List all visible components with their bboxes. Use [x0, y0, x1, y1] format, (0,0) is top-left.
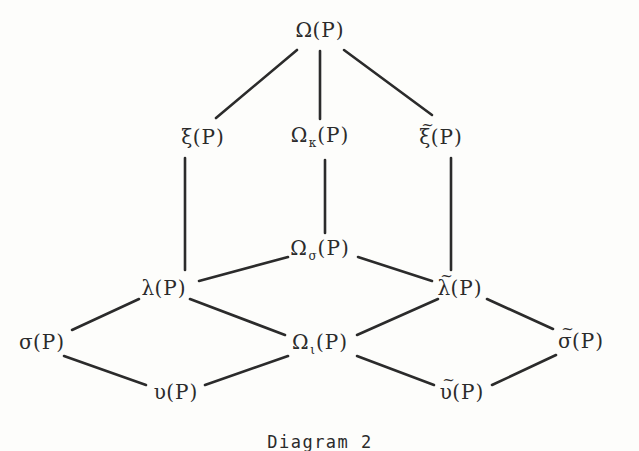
tilde-accent-icon: ~: [561, 322, 574, 337]
edge-layer: [0, 0, 639, 451]
node-subscript-omega-iota: ι: [309, 343, 316, 357]
edge-omega-iota-to-upsilon-tilde: [357, 356, 434, 385]
node-omega-kappa: Ωκ(P): [291, 125, 350, 149]
diagram-figure: Ω(P)ξ(P)Ωκ(P)ξ~(P)Ωσ(P)λ(P)λ~(P)σ(P)Ωι(P…: [0, 0, 639, 451]
node-subscript-omega-sigma: σ: [307, 249, 317, 263]
node-symbol-xi-tilde: ξ~: [419, 127, 431, 147]
node-xi-tilde: ξ~(P): [419, 127, 463, 147]
node-argument-omega-sigma: (P): [318, 236, 350, 260]
node-upsilon: υ(P): [154, 382, 199, 402]
node-base-omega-kappa: Ω: [291, 123, 308, 147]
node-argument-upsilon-tilde: (P): [452, 380, 484, 404]
node-omega: Ω(P): [295, 20, 344, 40]
tilde-accent-icon: ~: [440, 269, 453, 284]
node-argument-lambda-tilde: (P): [451, 276, 483, 300]
node-base-omega-sigma: Ω: [290, 236, 307, 260]
edge-lambda-to-sigma: [72, 299, 139, 330]
node-lambda-tilde: λ~(P): [437, 278, 482, 298]
figure-caption: Diagram 2: [267, 432, 373, 451]
node-lambda: λ(P): [141, 278, 186, 298]
node-base-xi: ξ: [181, 125, 193, 149]
node-base-sigma: σ: [19, 330, 33, 354]
node-argument-sigma-tilde: (P): [572, 329, 604, 353]
node-base-omega-iota: Ω: [292, 330, 309, 354]
node-omega-iota: Ωι(P): [292, 332, 348, 356]
node-argument-omega-iota: (P): [316, 330, 348, 354]
edge-omega-iota-to-lambda-tilde: [357, 299, 438, 335]
tilde-accent-icon: ~: [442, 373, 455, 388]
node-base-upsilon: υ: [154, 380, 167, 404]
node-argument-upsilon: (P): [166, 380, 198, 404]
node-base-omega: Ω: [295, 18, 312, 42]
edge-sigma-to-upsilon: [64, 356, 146, 385]
edge-lambda-tilde-to-sigma-tilde: [487, 299, 553, 329]
node-argument-sigma: (P): [33, 330, 65, 354]
node-subscript-omega-kappa: κ: [308, 136, 318, 150]
edge-upsilon-tilde-to-sigma-tilde: [492, 355, 556, 385]
node-symbol-upsilon-tilde: υ~: [440, 382, 453, 402]
node-omega-sigma: Ωσ(P): [290, 238, 349, 262]
node-argument-omega: (P): [313, 18, 345, 42]
edge-omega-to-xi-tilde: [344, 50, 432, 115]
node-argument-lambda: (P): [155, 276, 187, 300]
edge-lambda-to-omega-iota: [190, 299, 285, 335]
node-argument-omega-kappa: (P): [317, 123, 349, 147]
node-symbol-lambda-tilde: λ~: [437, 278, 450, 298]
edge-omega-to-xi: [216, 50, 297, 118]
node-upsilon-tilde: υ~(P): [440, 382, 485, 402]
node-argument-xi: (P): [193, 125, 225, 149]
node-symbol-sigma-tilde: σ~: [558, 331, 572, 351]
node-argument-xi-tilde: (P): [431, 125, 463, 149]
node-sigma-tilde: σ~(P): [558, 331, 604, 351]
node-base-lambda: λ: [141, 276, 154, 300]
edge-upsilon-to-omega-iota: [205, 356, 288, 385]
edge-omega-sigma-to-lambda: [199, 257, 288, 281]
node-sigma: σ(P): [19, 332, 65, 352]
node-xi: ξ(P): [181, 127, 225, 147]
tilde-accent-icon: ~: [421, 118, 434, 133]
edge-omega-sigma-to-lambda-tilde: [358, 257, 432, 281]
